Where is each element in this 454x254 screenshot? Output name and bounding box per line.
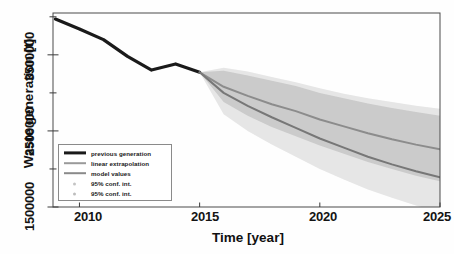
legend-item-label: model values xyxy=(91,170,131,177)
confidence-bands xyxy=(200,68,440,213)
legend-swatch-bar xyxy=(64,152,86,155)
xtick-2020: 2020 xyxy=(309,209,337,224)
legend-swatch-bar xyxy=(64,162,86,164)
legend-swatch-dot xyxy=(73,182,76,185)
chart-figure: 2010 2015 2020 2025 1500000 2500000 3500… xyxy=(0,0,454,254)
xtick-2010: 2010 xyxy=(74,209,102,224)
legend-item-label: linear extrapolation xyxy=(91,160,149,167)
plot-canvas xyxy=(0,0,454,254)
legend-swatch-dot xyxy=(73,192,76,195)
ytick-1500000: 1500000 xyxy=(22,171,37,243)
legend-line-swatch xyxy=(63,158,87,168)
legend-swatch-bar xyxy=(64,173,86,175)
series-line xyxy=(55,19,199,72)
legend-marker-swatch xyxy=(63,189,87,199)
legend-item-label: 95% conf. int. xyxy=(91,180,132,187)
legend-item-label: previous generation xyxy=(91,150,151,157)
legend-marker-swatch xyxy=(63,179,87,189)
xtick-2025: 2025 xyxy=(423,209,451,224)
legend-line-swatch xyxy=(63,168,87,178)
legend-line-swatch xyxy=(63,148,87,158)
legend-item-label: 95% conf. int. xyxy=(91,190,132,197)
legend-item: previous generation xyxy=(63,148,168,158)
legend-item: linear extrapolation xyxy=(63,158,168,168)
x-axis-label: Time [year] xyxy=(118,230,378,245)
legend-item: 95% conf. int. xyxy=(63,179,168,189)
legend-item: 95% conf. int. xyxy=(63,189,168,199)
chart-legend: previous generationlinear extrapolationm… xyxy=(58,144,172,201)
y-axis-label: Waste generation [t] xyxy=(21,34,36,174)
xtick-2015: 2015 xyxy=(191,209,219,224)
legend-item: model values xyxy=(63,168,168,178)
